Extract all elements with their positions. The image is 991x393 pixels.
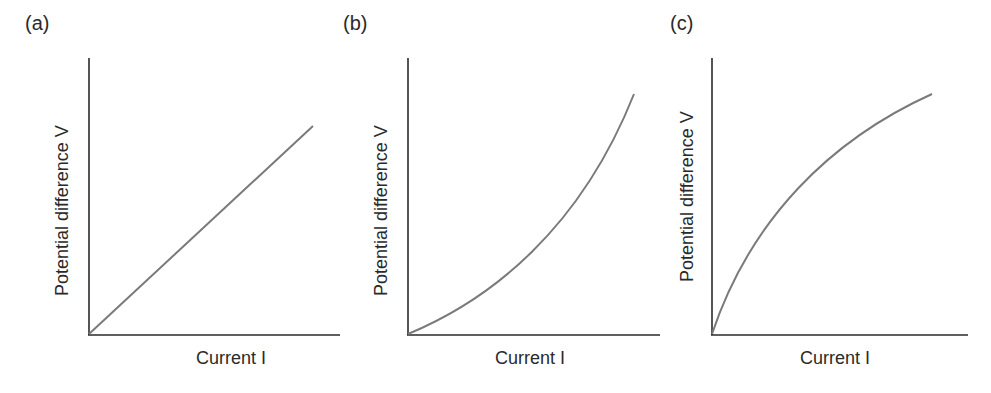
curve-a — [89, 126, 313, 334]
y-axis-label-a: Potential difference V — [52, 125, 73, 296]
panel-c: (c) Potential difference V Current I — [660, 0, 991, 393]
x-axis-label-b: Current I — [495, 348, 565, 369]
y-axis-label-b: Potential difference V — [371, 125, 392, 296]
panel-b: (b) Potential difference V Current I — [330, 0, 660, 393]
curve-b — [408, 94, 634, 334]
x-axis-label-c: Current I — [800, 348, 870, 369]
plot-a — [0, 0, 340, 393]
x-axis-label-a: Current I — [196, 348, 266, 369]
y-axis-label-c: Potential difference V — [677, 111, 698, 282]
curve-c — [712, 94, 932, 334]
plot-c — [660, 0, 991, 393]
panel-a: (a) Potential difference V Current I — [0, 0, 340, 393]
